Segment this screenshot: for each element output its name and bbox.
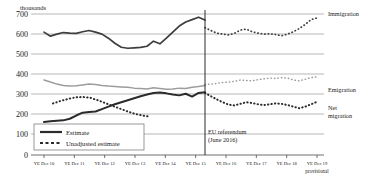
legend: Estimate Unadjusted estimate bbox=[34, 124, 144, 150]
x-tick-label: YE Dec 12 bbox=[94, 161, 115, 166]
x-tick-label: YE Dec 15 bbox=[185, 161, 206, 166]
y-axis: 700 600 500 400 300 200 100 0 bbox=[16, 10, 28, 160]
series-line-net-migration-unadjusted bbox=[205, 93, 317, 108]
series-line-immigration-unadjusted bbox=[205, 18, 317, 36]
series-label-net-migration-line1: Net bbox=[328, 104, 337, 111]
ytick-500: 500 bbox=[16, 50, 28, 59]
migration-chart: thousands 700 600 500 400 300 200 100 0 … bbox=[0, 0, 374, 179]
series-labels: Immigration Emigration Net migration bbox=[328, 10, 359, 119]
ytick-0: 0 bbox=[24, 151, 28, 160]
x-tick-note-provisional: provisional bbox=[305, 168, 329, 174]
x-axis-ticks: YE Dec 10YE Dec 11YE Dec 12YE Dec 13YE D… bbox=[34, 155, 329, 174]
series-label-emigration: Emigration bbox=[328, 86, 356, 93]
eu-referendum-label-line1: EU referendum bbox=[208, 128, 246, 135]
ytick-200: 200 bbox=[16, 110, 28, 119]
chart-svg: thousands 700 600 500 400 300 200 100 0 … bbox=[0, 0, 374, 179]
x-tick-label: YE Dec 11 bbox=[64, 161, 85, 166]
legend-label-estimate: Estimate bbox=[66, 129, 89, 136]
series-line-emigration-unadjusted bbox=[205, 77, 317, 85]
x-tick-label: YE Dec 16 bbox=[216, 161, 237, 166]
series-line-net-migration-estimate bbox=[44, 92, 205, 122]
x-tick-label: YE Dec 13 bbox=[125, 161, 146, 166]
series-label-net-migration-line2: migration bbox=[328, 112, 352, 119]
ytick-400: 400 bbox=[16, 70, 28, 79]
legend-label-unadjusted-estimate: Unadjusted estimate bbox=[66, 140, 120, 147]
x-tick-label: YE Dec 19 bbox=[307, 161, 328, 166]
ytick-700: 700 bbox=[16, 10, 28, 19]
ytick-600: 600 bbox=[16, 30, 28, 39]
x-tick-label: YE Dec 10 bbox=[34, 161, 55, 166]
x-tick-label: YE Dec 18 bbox=[276, 161, 297, 166]
ytick-100: 100 bbox=[16, 130, 28, 139]
x-tick-label: YE Dec 17 bbox=[246, 161, 267, 166]
series-label-immigration: Immigration bbox=[328, 10, 359, 17]
x-tick-label: YE Dec 14 bbox=[155, 161, 176, 166]
ytick-300: 300 bbox=[16, 90, 28, 99]
series-line-immigration-estimate bbox=[44, 17, 205, 48]
eu-referendum-label-line2: (June 2016) bbox=[208, 136, 237, 144]
series-line-emigration-estimate bbox=[44, 80, 205, 89]
eu-referendum-annotation: EU referendum (June 2016) bbox=[208, 128, 246, 144]
series-layer bbox=[44, 17, 317, 122]
